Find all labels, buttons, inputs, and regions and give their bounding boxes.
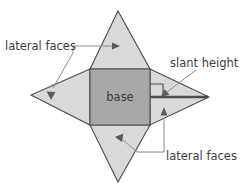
pyramid-net-diagram: lateral faces slant height lateral faces… <box>0 0 240 189</box>
label-slant-height: slant height <box>170 56 239 70</box>
top-lateral-face <box>90 11 150 69</box>
diagram-canvas: lateral faces slant height lateral faces… <box>0 0 240 189</box>
label-base: base <box>106 90 133 104</box>
bottom-lateral-face <box>90 125 150 182</box>
label-lateral-faces-top: lateral faces <box>5 39 76 53</box>
label-lateral-faces-bottom: lateral faces <box>166 149 237 163</box>
left-lateral-face <box>31 69 90 125</box>
